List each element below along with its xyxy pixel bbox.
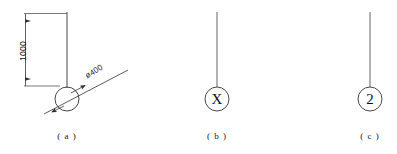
circle-symbol-text-b: X [205,91,229,108]
dimension-label-a: 1000 [18,33,28,69]
drawing-canvas: 1000 ø400 X 2 ( a ) ( b ) ( c ) [0,0,397,154]
circle-symbol-text-c: 2 [358,91,382,108]
caption-b: ( b ) [197,131,237,141]
subfigure-a [24,12,128,114]
caption-c: ( c ) [350,131,390,141]
caption-a: ( a ) [47,131,87,141]
leader-arrow-upper-a [71,86,85,94]
